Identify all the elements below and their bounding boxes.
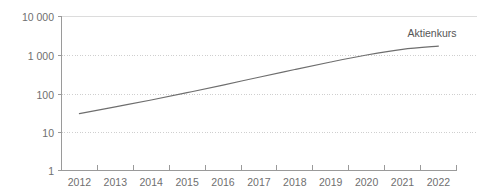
series-line-aktienkurs (79, 46, 438, 114)
x-axis-tick-label-2016: 2016 (211, 176, 235, 188)
x-axis-tick-label-2015: 2015 (175, 176, 199, 188)
x-axis-tick-label-2022: 2022 (427, 176, 451, 188)
x-axis-tick-label-2014: 2014 (140, 176, 164, 188)
stock-price-log-chart: 10 000 1 000 100 10 1 2012 2013 2014 201… (0, 0, 490, 196)
x-axis: 2012 2013 2014 2015 2016 2017 2018 2019 … (62, 165, 457, 188)
x-axis-tick-label-2019: 2019 (319, 176, 343, 188)
y-axis-tick-label-10000: 10 000 (22, 11, 54, 23)
y-axis: 10 000 1 000 100 10 1 (22, 11, 62, 177)
x-axis-tick-label-2013: 2013 (104, 176, 128, 188)
y-axis-tick-label-100: 100 (36, 89, 54, 101)
y-axis-tick-label-1000: 1 000 (28, 50, 54, 62)
y-axis-tick-label-1: 1 (48, 165, 54, 177)
series-annotation-aktienkurs: Aktienkurs (407, 27, 456, 39)
x-axis-tick-label-2021: 2021 (391, 176, 415, 188)
x-axis-tick-label-2018: 2018 (283, 176, 307, 188)
x-axis-tick-label-2017: 2017 (247, 176, 271, 188)
x-axis-tick-label-2012: 2012 (68, 176, 92, 188)
y-axis-tick-label-10: 10 (42, 127, 54, 139)
chart-canvas: 10 000 1 000 100 10 1 2012 2013 2014 201… (0, 0, 490, 196)
data-series-group (79, 46, 438, 114)
x-axis-tick-label-2020: 2020 (355, 176, 379, 188)
